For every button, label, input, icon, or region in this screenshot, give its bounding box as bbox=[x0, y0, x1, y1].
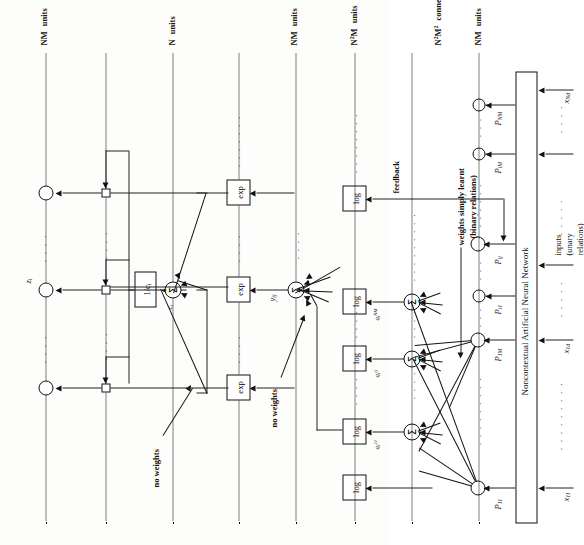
input-dots-1: · · · · · · · · · bbox=[555, 381, 565, 450]
input-dots-3: · · · · · bbox=[555, 198, 565, 235]
feedback-hline bbox=[503, 198, 504, 238]
annotation-no-weights-lower: no weights bbox=[268, 389, 278, 428]
input-arrowhead-3 bbox=[538, 262, 544, 268]
input-line-2 bbox=[545, 339, 573, 340]
q-label-2: qiij bbox=[372, 370, 380, 377]
p-stem-arrow-4 bbox=[483, 241, 489, 247]
layer-label-nm-top: NM units bbox=[38, 8, 48, 45]
layer-label-n-units-line1: N bbox=[166, 39, 176, 45]
p-stem-2 bbox=[485, 339, 515, 340]
layer-label-nm-mid-line1: NM bbox=[288, 31, 298, 45]
layer-label-nm-mid: NM units bbox=[288, 8, 298, 45]
n-sigma-arrow-c bbox=[174, 272, 182, 280]
multiplier-node-1 bbox=[101, 383, 110, 392]
log-in-arrowhead-2 bbox=[365, 429, 371, 435]
inverse-bus-drop-right bbox=[105, 150, 129, 151]
no-weights-lower-arrowhead bbox=[299, 313, 307, 321]
p-label-4: Pij bbox=[492, 256, 503, 264]
p-stem-1 bbox=[485, 487, 515, 488]
annotation-no-weights-upper: no weights bbox=[150, 449, 160, 488]
p-row-dots-3: · · · bbox=[474, 260, 484, 281]
exp-row-dots-2: · · · · bbox=[233, 233, 243, 262]
p-row-dots-1: · · · · · · · · · bbox=[474, 376, 484, 445]
exp-in-line-3 bbox=[256, 192, 294, 193]
q3-arrow-b bbox=[419, 299, 425, 305]
layer-label-nm-bottom: NM units bbox=[472, 8, 482, 45]
output-node-1 bbox=[38, 380, 53, 395]
layer-label-nm-top-line1: NM bbox=[38, 31, 48, 45]
exp-box-2-label: exp bbox=[234, 283, 244, 295]
n-sigma-bus bbox=[206, 289, 207, 393]
y-in-arrow-2 bbox=[303, 287, 309, 293]
exp-box-1-label: exp bbox=[234, 381, 244, 393]
trunk-2 bbox=[110, 289, 166, 290]
z-label: zi bbox=[22, 278, 33, 283]
layer-label-nm-mid-line2: units bbox=[288, 8, 298, 26]
p-label-2: P1M bbox=[492, 348, 503, 361]
no-weights-lower-leader bbox=[280, 319, 303, 377]
q2-arrow-b bbox=[419, 356, 425, 362]
weights-learnt-leader bbox=[460, 247, 461, 355]
inverse-arrowhead-3 bbox=[102, 182, 108, 188]
input-dots-2: · · · · · bbox=[555, 280, 565, 317]
inverse-branch-1 bbox=[105, 356, 129, 357]
input-line-4 bbox=[545, 153, 573, 154]
annotation-feedback: feedback bbox=[390, 160, 400, 193]
inverse-branch-2 bbox=[105, 259, 129, 260]
log-in-arrowhead-3 bbox=[365, 356, 371, 362]
exp-box-1: exp bbox=[226, 374, 250, 400]
input-label-3: xNd bbox=[560, 92, 571, 103]
inverse-arrowhead-2 bbox=[102, 279, 108, 285]
trunk-1 bbox=[110, 387, 228, 388]
p-label-3: Pi1 bbox=[492, 304, 503, 314]
p-row-dots-2: · · · bbox=[474, 307, 484, 328]
log-in-arrowhead-4 bbox=[365, 299, 371, 305]
weights-learnt-arrowhead bbox=[457, 352, 463, 358]
multiplier-node-3 bbox=[101, 188, 110, 197]
layer-label-n2m-units: N2M units bbox=[348, 5, 358, 45]
input-label-1: x11 bbox=[560, 492, 571, 501]
inverse-arrowhead-1 bbox=[102, 377, 108, 383]
out-arrow-line-2 bbox=[62, 289, 106, 290]
p-stem-arrow-2 bbox=[483, 337, 489, 343]
p-stem-arrow-1 bbox=[483, 485, 489, 491]
p-label-1: P11 bbox=[492, 498, 503, 509]
mult-row-dots-2: · · · · bbox=[100, 230, 110, 259]
layer-guide-sigma-q bbox=[411, 53, 412, 523]
exp-in-arrowhead-1 bbox=[249, 385, 255, 391]
p-stem-4 bbox=[485, 243, 515, 244]
no-weights-upper-leader bbox=[162, 388, 193, 436]
out-arrowhead-1 bbox=[55, 385, 61, 391]
input-line-3 bbox=[545, 264, 573, 265]
inputs-group-label-line1: inputs bbox=[552, 234, 562, 255]
input-arrowhead-4 bbox=[538, 151, 544, 157]
feedback-vline bbox=[470, 198, 503, 199]
annotation-weights-learnt-line1: weights simply learnt bbox=[455, 168, 465, 245]
layer-label-n-units-line2: units bbox=[166, 16, 176, 34]
exp-in-arrowhead-2 bbox=[249, 287, 255, 293]
output-node-2 bbox=[38, 282, 53, 297]
layer-label-nm-top-line2: units bbox=[38, 8, 48, 26]
p-row-dots-4: · · · · · · bbox=[474, 182, 484, 227]
exp-box-3: exp bbox=[226, 179, 250, 205]
log-in-arrowhead-5 bbox=[365, 196, 371, 202]
out-arrowhead-3 bbox=[55, 190, 61, 196]
exp-box-2: exp bbox=[226, 276, 250, 302]
q-label-3: qiNM bbox=[372, 308, 380, 320]
y-label: yij bbox=[266, 294, 277, 301]
p-row-dots-5: · · · bbox=[474, 117, 484, 138]
inputs-group-label-line3: relations) bbox=[574, 223, 584, 255]
input-arrowhead-5 bbox=[538, 87, 544, 93]
inputs-group-label-line2: (unary bbox=[563, 233, 573, 255]
layer-label-n2m-line2: units bbox=[348, 5, 358, 23]
cross-p1-to-q3 bbox=[410, 302, 479, 488]
cross-p2-to-q1 bbox=[418, 340, 478, 452]
inverse-bus-horizontal bbox=[128, 151, 129, 383]
layer-label-n2m2-connections: N2M2 connections bbox=[432, 0, 442, 45]
output-row-dots-2: · · · · bbox=[39, 233, 49, 262]
sigma-q-dots-1: · · · · bbox=[408, 370, 418, 399]
input-arrowhead-1 bbox=[538, 485, 544, 491]
sigma-q-dots-2: · · · · bbox=[408, 309, 418, 338]
multiplier-node-2 bbox=[101, 285, 110, 294]
